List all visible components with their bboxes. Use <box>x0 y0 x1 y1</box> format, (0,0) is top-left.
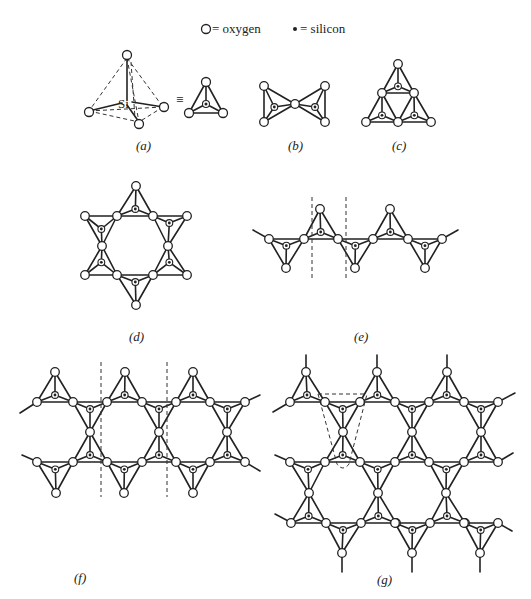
oxygen-atom <box>356 398 365 407</box>
oxygen-atom <box>408 549 417 558</box>
oxygen-atom <box>394 60 403 69</box>
oxygen-atom <box>121 368 130 377</box>
oxygen-atom <box>241 398 250 407</box>
oxygen-atom <box>425 458 434 467</box>
panel-a-tetrahedron: Si ≡ (a) <box>85 51 228 154</box>
oxygen-atom <box>52 489 61 498</box>
oxygen-atom <box>438 235 447 244</box>
oxygen-atom <box>391 519 400 528</box>
panel-d-label: (d) <box>129 329 144 344</box>
oxygen-atom <box>369 235 378 244</box>
silicon-legend-symbol <box>293 27 297 31</box>
oxygen-atom <box>408 428 417 437</box>
oxygen-atom <box>123 51 132 60</box>
oxygen-atom <box>373 368 382 377</box>
panel-e-single-chain <box>253 197 458 281</box>
oxygen-atom <box>476 549 485 558</box>
oxygen-atom <box>286 398 295 407</box>
oxygen-atom <box>172 458 181 467</box>
oxygen-atom <box>81 271 90 280</box>
oxygen-atom <box>460 519 469 528</box>
oxygen-atom <box>287 519 296 528</box>
oxygen-atom <box>265 235 274 244</box>
oxygen-atom <box>85 108 94 117</box>
oxygen-legend-symbol <box>202 25 211 34</box>
oxygen-atom <box>460 398 469 407</box>
oxygen-atom <box>394 118 403 127</box>
oxygen-atom <box>69 458 78 467</box>
oxygen-atom <box>51 368 60 377</box>
oxygen-atom <box>494 519 503 528</box>
panel-f-double-chain <box>20 362 260 497</box>
oxygen-atom <box>339 428 348 437</box>
oxygen-atom <box>321 458 330 467</box>
oxygen-atom <box>260 82 269 91</box>
oxygen-atom <box>183 271 192 280</box>
oxygen-atom <box>286 458 295 467</box>
silicon-legend-label: = silicon <box>300 21 346 36</box>
oxygen-atom <box>362 118 371 127</box>
panel-c-label: (c) <box>392 138 406 153</box>
oxygen-atom <box>206 458 215 467</box>
oxygen-atom <box>477 428 486 437</box>
oxygen-atom <box>391 458 400 467</box>
oxygen-atom <box>33 458 42 467</box>
oxygen-atom <box>322 519 331 528</box>
oxygen-atom <box>260 118 269 127</box>
oxygen-atom <box>334 235 343 244</box>
oxygen-atom <box>316 205 325 214</box>
oxygen-atom <box>321 118 330 127</box>
oxygen-atom <box>321 398 330 407</box>
oxygen-atom <box>425 398 434 407</box>
silicon-label: Si <box>118 96 129 111</box>
oxygen-atom <box>113 271 122 280</box>
oxygen-atom <box>183 212 192 221</box>
oxygen-atom <box>189 489 198 498</box>
oxygen-atom <box>300 235 309 244</box>
panel-g-label: (g) <box>377 572 392 587</box>
oxygen-atom <box>410 89 419 98</box>
oxygen-atom <box>160 103 169 112</box>
panel-b-label: (b) <box>288 138 303 153</box>
oxygen-atom <box>302 368 311 377</box>
oxygen-atom <box>69 398 78 407</box>
oxygen-atom <box>132 301 141 310</box>
oxygen-atom <box>113 212 122 221</box>
oxygen-atom <box>442 489 451 498</box>
oxygen-atom <box>189 368 198 377</box>
panel-e-label: (e) <box>354 329 368 344</box>
equivalence-sign: ≡ <box>176 92 183 107</box>
panel-c-ring-3 <box>362 60 436 127</box>
legend: = oxygen = silicon <box>202 21 346 36</box>
panel-g-sheet <box>273 355 515 572</box>
oxygen-atom <box>494 398 503 407</box>
oxygen-atom <box>120 489 129 498</box>
oxygen-atom <box>103 458 112 467</box>
oxygen-atom <box>386 205 395 214</box>
oxygen-atom <box>351 264 360 273</box>
tetrahedron-symbol <box>185 78 228 118</box>
oxygen-atom <box>149 271 158 280</box>
oxygen-atom <box>460 458 469 467</box>
oxygen-atom <box>138 458 147 467</box>
oxygen-atom <box>374 489 383 498</box>
oxygen-legend-label: = oxygen <box>212 21 261 36</box>
oxygen-atom <box>282 264 291 273</box>
oxygen-atom <box>404 235 413 244</box>
oxygen-atom <box>241 458 250 467</box>
oxygen-atom <box>391 398 400 407</box>
panel-f-label: (f) <box>74 570 86 585</box>
oxygen-atom <box>155 428 164 437</box>
oxygen-atom <box>357 519 366 528</box>
oxygen-atom <box>86 428 95 437</box>
panel-a-label: (a) <box>136 138 151 153</box>
oxygen-atom <box>138 398 147 407</box>
oxygen-atom <box>81 212 90 221</box>
oxygen-atom <box>443 368 452 377</box>
oxygen-atom <box>132 182 141 191</box>
panel-b-pyrosilicate <box>260 82 330 127</box>
oxygen-atom <box>135 120 144 129</box>
oxygen-atom <box>338 549 347 558</box>
oxygen-atom <box>103 398 112 407</box>
oxygen-atom <box>321 82 330 91</box>
